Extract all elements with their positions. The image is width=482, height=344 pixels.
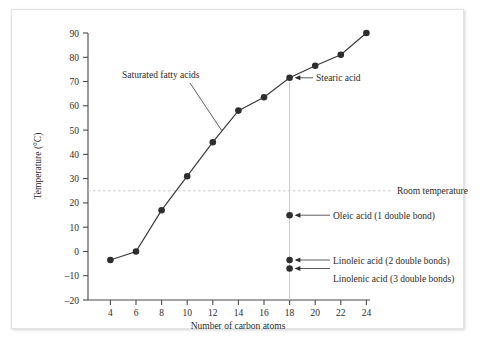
annotation-oleic-acid: Oleic acid (1 double bond) [295, 211, 435, 222]
linolenic-arrowhead-icon [295, 266, 301, 271]
fatty-acid-melting-point-chart: 90 80 70 60 50 40 30 20 10 0 –10 –20 Tem… [0, 0, 482, 344]
data-point-c22 [338, 52, 345, 59]
data-point-c10 [184, 173, 191, 180]
y-tick-label-0: 0 [74, 247, 79, 257]
stearic-label: Stearic acid [316, 73, 361, 83]
linoleic-label: Linoleic acid (2 double bonds) [333, 256, 450, 267]
data-point-c14 [235, 107, 242, 114]
y-tick-group [83, 33, 88, 300]
y-tick-label-40: 40 [70, 150, 80, 160]
linolenic-label: Linolenic acid (3 double bonds) [333, 274, 454, 285]
x-tick-label-16: 16 [259, 308, 269, 318]
data-point-c6 [133, 248, 140, 255]
annotation-linoleic-acid: Linoleic acid (2 double bonds) [295, 256, 450, 267]
y-tick-label-neg20: –20 [64, 296, 80, 306]
data-point-linolenic [286, 265, 293, 272]
y-tick-label-30: 30 [70, 174, 80, 184]
oleic-label: Oleic acid (1 double bond) [333, 211, 435, 222]
x-tick-label-18: 18 [285, 308, 295, 318]
x-tick-label-6: 6 [134, 308, 139, 318]
room-temperature-label: Room temperature [397, 186, 468, 196]
x-tick-label-14: 14 [234, 308, 244, 318]
annotation-stearic-acid: Stearic acid [295, 73, 361, 83]
x-tick-label-24: 24 [362, 308, 372, 318]
data-point-c20 [312, 62, 319, 69]
x-tick-label-20: 20 [310, 308, 320, 318]
y-axis: 90 80 70 60 50 40 30 20 10 0 –10 –20 Tem… [33, 29, 88, 306]
y-tick-label-50: 50 [70, 126, 80, 136]
data-point-oleic [286, 212, 293, 219]
data-point-c24 [363, 30, 370, 37]
y-tick-label-90: 90 [70, 29, 80, 39]
x-tick-label-22: 22 [336, 308, 346, 318]
x-axis: 4 6 8 10 12 14 16 18 20 22 24 Number of … [88, 300, 371, 331]
saturated-label: Saturated fatty acids [122, 70, 200, 80]
data-point-c16 [261, 94, 268, 101]
stearic-arrowhead-icon [295, 75, 301, 80]
y-tick-label-80: 80 [70, 53, 80, 63]
x-axis-title: Number of carbon atoms [191, 321, 286, 331]
x-tick-label-10: 10 [182, 308, 192, 318]
data-point-c12 [210, 139, 217, 146]
x-tick-label-4: 4 [108, 308, 113, 318]
data-point-c18-stearic [286, 75, 293, 82]
annotation-linolenic-acid: Linolenic acid (3 double bonds) [295, 266, 455, 285]
x-tick-label-12: 12 [208, 308, 218, 318]
annotation-saturated-fatty-acids: Saturated fatty acids [122, 70, 222, 131]
oleic-arrowhead-icon [295, 213, 301, 218]
saturated-leader-line [190, 83, 222, 131]
y-axis-title: Temperature (°C) [33, 133, 44, 200]
saturated-markers [107, 30, 370, 264]
data-point-c8 [158, 207, 165, 214]
x-tick-group [110, 300, 366, 305]
data-point-c4 [107, 257, 114, 264]
y-tick-label-70: 70 [70, 77, 80, 87]
y-tick-label-20: 20 [70, 198, 80, 208]
y-tick-label-60: 60 [70, 101, 80, 111]
linoleic-arrowhead-icon [295, 258, 301, 263]
data-point-linoleic [286, 257, 293, 264]
x-tick-label-8: 8 [159, 308, 164, 318]
y-tick-label-10: 10 [70, 223, 80, 233]
y-tick-label-neg10: –10 [64, 271, 80, 281]
saturated-series-line [110, 33, 366, 260]
